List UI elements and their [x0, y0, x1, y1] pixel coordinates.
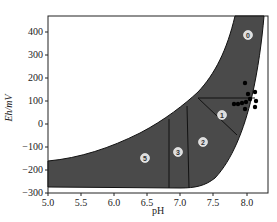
region-0-label: 0 — [246, 32, 250, 39]
x-tick-6.0: 6.0 — [108, 197, 121, 208]
y-axis-title: Eh/mV — [3, 93, 14, 123]
region-3-label: 3 — [176, 149, 180, 156]
y-tick-minus200: −200 — [22, 164, 43, 175]
y-tick-0: 0 — [38, 118, 43, 129]
x-tick-5.0: 5.0 — [42, 197, 55, 208]
y-tick-100: 100 — [28, 95, 43, 106]
y-axis-tick-labels: 400 300 200 100 0 −100 −200 −300 — [22, 26, 43, 198]
y-tick-300: 300 — [28, 49, 43, 60]
x-axis-tick-labels: 5.0 5.5 6.0 6.5 7.0 7.5 8.0 — [42, 197, 254, 208]
region-2-label: 2 — [201, 139, 205, 146]
x-tick-7.5: 7.5 — [207, 197, 220, 208]
x-tick-7.0: 7.0 — [174, 197, 187, 208]
x-axis-title: pH — [152, 205, 164, 216]
region-5-label: 5 — [143, 155, 147, 162]
y-tick-minus300: −300 — [22, 187, 43, 198]
region-1-label: 1 — [220, 112, 224, 119]
y-tick-minus100: −100 — [22, 141, 43, 152]
x-tick-8.0: 8.0 — [241, 197, 254, 208]
y-tick-200: 200 — [28, 72, 43, 83]
y-tick-400: 400 — [28, 26, 43, 37]
x-tick-5.5: 5.5 — [75, 197, 88, 208]
eh-ph-chart: 0 1 2 3 5 400 300 200 100 — [0, 0, 277, 222]
